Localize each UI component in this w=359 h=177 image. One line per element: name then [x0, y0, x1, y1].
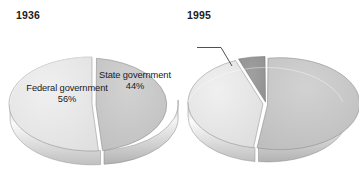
slice-label-state-1936-percent: 44% — [96, 81, 174, 92]
slice-label-state-1936-name: State government — [96, 70, 174, 81]
chart-title-1936: 1936 — [16, 9, 40, 21]
slice-label-state-1936: State government 44% — [96, 70, 174, 92]
chart-title-1995: 1995 — [187, 9, 211, 21]
slice-top-state-1995 — [257, 58, 359, 150]
pie-chart-figure: 1936 — [0, 0, 359, 177]
slice-label-federal-1936-percent: 56% — [24, 94, 110, 105]
pie-chart-1995 — [179, 42, 359, 167]
chart-panel-1995: 1995 — [179, 0, 359, 177]
chart-panel-1936: 1936 — [0, 0, 180, 177]
